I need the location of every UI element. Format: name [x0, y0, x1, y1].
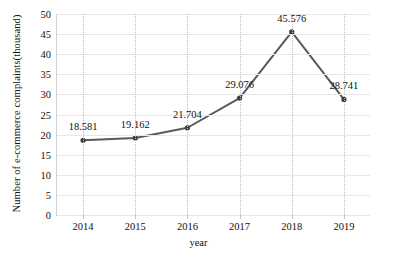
gridline-horizontal: [57, 155, 370, 156]
gridline-horizontal: [57, 94, 370, 95]
gridline-vertical: [344, 14, 345, 215]
gridline-vertical: [83, 14, 84, 215]
y-tick-label: 25: [25, 109, 51, 120]
x-axis-tick: [344, 215, 345, 219]
x-axis-tick: [292, 215, 293, 219]
gridline-vertical: [292, 14, 293, 215]
x-tick-label: 2018: [262, 221, 322, 232]
data-label: 19.162: [102, 119, 168, 130]
x-tick-label: 2017: [210, 221, 270, 232]
y-tick-label: 45: [25, 29, 51, 40]
gridline-vertical: [135, 14, 136, 215]
gridline-horizontal: [57, 54, 370, 55]
y-tick-label: 5: [25, 189, 51, 200]
gridline-vertical: [240, 14, 241, 215]
y-tick-label: 35: [25, 69, 51, 80]
data-label: 45.576: [259, 13, 325, 24]
gridline-horizontal: [57, 34, 370, 35]
y-tick-label: 20: [25, 129, 51, 140]
x-tick-label: 2014: [53, 221, 113, 232]
data-label: 28.741: [311, 80, 377, 91]
y-tick-label: 30: [25, 89, 51, 100]
gridline-horizontal: [57, 175, 370, 176]
y-tick-label: 50: [25, 9, 51, 20]
data-label: 29.076: [207, 79, 273, 90]
data-label: 21.704: [154, 109, 220, 120]
y-tick-label: 40: [25, 49, 51, 60]
x-tick-label: 2016: [157, 221, 217, 232]
y-tick-label: 0: [25, 210, 51, 221]
gridline-horizontal: [57, 195, 370, 196]
y-tick-label: 10: [25, 169, 51, 180]
y-axis-title: Number of e-commerce complaints(thousand…: [11, 9, 22, 219]
x-axis-tick: [135, 215, 136, 219]
x-axis-title: year: [0, 237, 397, 248]
x-tick-label: 2019: [314, 221, 374, 232]
line-chart: Number of e-commerce complaints(thousand…: [0, 0, 397, 260]
x-tick-label: 2015: [105, 221, 165, 232]
x-axis-tick: [187, 215, 188, 219]
y-tick-label: 15: [25, 149, 51, 160]
gridline-horizontal: [57, 215, 370, 216]
gridline-horizontal: [57, 74, 370, 75]
x-axis-tick: [240, 215, 241, 219]
x-axis-tick: [83, 215, 84, 219]
y-tick-labels: 05101520253035404550: [23, 14, 51, 215]
gridline-horizontal: [57, 135, 370, 136]
